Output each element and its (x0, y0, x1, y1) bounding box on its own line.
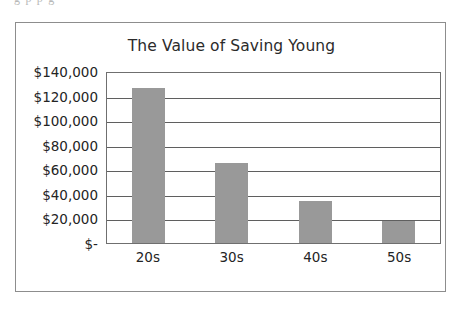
plot-area (106, 72, 441, 244)
x-axis-tick-label: 50s (369, 249, 429, 265)
x-axis: 20s30s40s50s (106, 249, 441, 265)
bar (382, 221, 415, 243)
cut-off-header-text: g p p g (14, 0, 254, 5)
bar-series (107, 73, 440, 243)
x-axis-tick-label: 20s (118, 249, 178, 265)
x-axis-tick-label: 30s (202, 249, 262, 265)
y-axis-tick-label: $100,000 (34, 113, 98, 129)
bar (215, 163, 248, 243)
chart-title: The Value of Saving Young (16, 37, 447, 55)
y-axis-tick-label: $120,000 (34, 89, 98, 105)
y-axis-tick-label: $- (85, 236, 98, 252)
y-axis-tick-label: $60,000 (42, 162, 98, 178)
y-axis-tick-label: $80,000 (42, 138, 98, 154)
bar (299, 201, 332, 243)
y-axis-tick-label: $20,000 (42, 211, 98, 227)
x-axis-tick-label: 40s (285, 249, 345, 265)
bar (132, 88, 165, 243)
y-axis: $140,000$120,000$100,000$80,000$60,000$4… (16, 72, 102, 244)
y-axis-tick-label: $140,000 (34, 64, 98, 80)
chart-frame: The Value of Saving Young $140,000$120,0… (15, 22, 446, 292)
y-axis-tick-label: $40,000 (42, 187, 98, 203)
